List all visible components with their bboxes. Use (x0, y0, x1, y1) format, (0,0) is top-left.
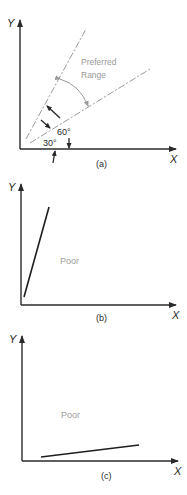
upper-boundary-60deg (26, 29, 86, 139)
angle-30-arrow-up (53, 151, 55, 163)
preferred-range-arc (60, 79, 88, 106)
shallow-line (41, 445, 139, 457)
diagram-canvas: Y X Preferred Range 60° 30° (a) Y X Poor… (0, 0, 187, 495)
x-axis-label: X (173, 465, 182, 477)
poor-label: Poor (60, 256, 79, 266)
panel-a: Y X Preferred Range 60° 30° (a) (7, 17, 178, 169)
panel-b: Y X Poor (b) (8, 181, 180, 323)
panel-c: Y X Poor (c) (9, 333, 182, 481)
angle-60-arrow (47, 106, 60, 118)
poor-label: Poor (61, 410, 80, 420)
preferred-label: Preferred (81, 57, 117, 67)
y-axis-label: Y (8, 181, 16, 193)
caption-a: (a) (96, 159, 107, 169)
angle-60-label: 60° (57, 127, 71, 137)
angle-60-arrow-inner (41, 120, 50, 128)
caption-c: (c) (101, 471, 112, 481)
angle-30-label: 30° (43, 138, 57, 148)
steep-line (24, 207, 49, 297)
range-label: Range (81, 70, 106, 80)
caption-b: (b) (96, 313, 107, 323)
y-axis-label: Y (7, 17, 15, 29)
x-axis-label: X (171, 309, 180, 321)
y-axis-label: Y (9, 333, 17, 345)
x-axis-label: X (169, 153, 178, 165)
